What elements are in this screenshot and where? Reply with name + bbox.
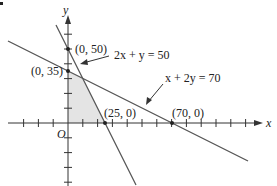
equation-label-2: x + 2y = 70 xyxy=(165,71,221,85)
point-70-0 xyxy=(170,121,174,125)
origin-label: O xyxy=(57,127,66,141)
lp-diagram: x y O (0, 50) (0, 35) (25, 0) (70, 0) xyxy=(0,0,277,186)
x-axis: x xyxy=(8,116,272,130)
point-label-70-0: (70, 0) xyxy=(172,106,204,120)
point-25-0 xyxy=(103,121,107,125)
equation-1-arrow-icon xyxy=(80,59,88,65)
feasible-region xyxy=(68,71,105,123)
point-label-0-35: (0, 35) xyxy=(31,64,63,78)
equation-label-1: 2x + y = 50 xyxy=(114,48,170,62)
equation-2-text: x + 2y = 70 xyxy=(165,71,221,85)
point-label-25-0: (25, 0) xyxy=(104,106,136,120)
point-0-50 xyxy=(66,47,70,51)
x-axis-label: x xyxy=(265,116,272,130)
point-0-35 xyxy=(66,69,70,73)
point-label-0-50: (0, 50) xyxy=(75,42,107,56)
x-axis-arrow-icon xyxy=(254,120,263,126)
equation-1-text: 2x + y = 50 xyxy=(114,48,170,62)
corner-mark xyxy=(0,2,3,5)
y-axis-label: y xyxy=(62,3,69,17)
